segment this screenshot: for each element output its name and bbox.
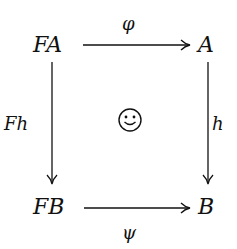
label-h: h [212,115,224,133]
arrow-top [83,40,190,50]
label-psi: ψ [122,224,136,242]
node-FA: FA [33,34,62,56]
label-phi: φ [122,15,135,33]
smiley-icon [117,107,143,133]
label-Fh: Fh [4,115,28,133]
node-FB: FB [33,196,64,218]
arrow-bottom [84,203,190,213]
arrow-left [47,62,57,184]
node-B: B [198,196,214,218]
node-A: A [198,34,214,56]
